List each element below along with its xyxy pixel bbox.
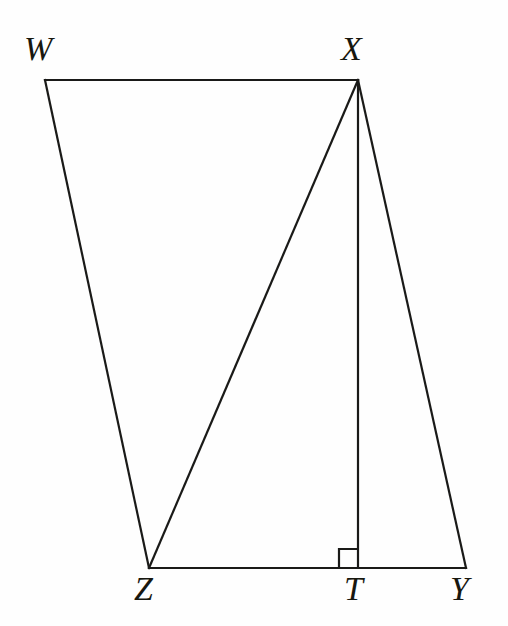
vertex-label-Z: Z	[134, 572, 153, 606]
vertex-label-W: W	[24, 32, 52, 66]
right-angle-marker-T	[339, 549, 358, 568]
segment-ZX	[149, 80, 358, 568]
geometry-figure: W X Z T Y	[0, 0, 508, 626]
figure-canvas	[0, 0, 508, 626]
vertex-label-T: T	[344, 572, 363, 606]
segment-WZ	[45, 80, 149, 568]
segment-XY	[358, 80, 466, 568]
vertex-label-X: X	[341, 32, 362, 66]
vertex-label-Y: Y	[450, 572, 469, 606]
